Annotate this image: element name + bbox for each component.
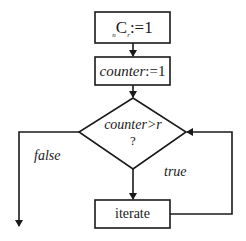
true-edge-label: true bbox=[164, 164, 187, 180]
c-symbol: C bbox=[116, 18, 127, 37]
counter-var: counter bbox=[100, 63, 146, 79]
counter-assign: :=1 bbox=[145, 63, 165, 79]
false-edge-label: false bbox=[34, 148, 60, 164]
assign-value: :=1 bbox=[130, 18, 153, 37]
iterate-label: iterate bbox=[95, 204, 170, 224]
init-combination-label: nCr:=1 bbox=[95, 17, 170, 46]
decision-condition: counter>r bbox=[83, 117, 183, 133]
decision-question-mark: ? bbox=[83, 133, 183, 149]
init-counter-label: counter:=1 bbox=[95, 60, 170, 82]
